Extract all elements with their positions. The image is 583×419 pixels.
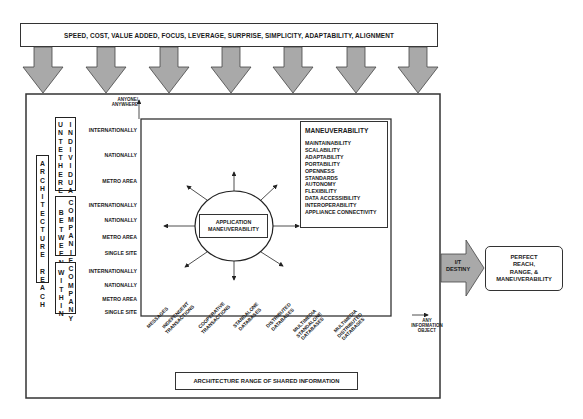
level-label: METRO AREA (102, 234, 137, 240)
group-label-letter: D (68, 138, 73, 146)
maneuverability-item: OPENNESS (305, 168, 383, 175)
maneuverability-title: MANEUVERABILITY (305, 127, 383, 134)
level-label: INTERNATIONALLY (89, 127, 137, 133)
reach-level-labels: INTERNATIONALLY NATIONALLY METRO AREA IN… (75, 0, 137, 419)
group-label-letter: I (60, 277, 62, 285)
y-axis-end-line: ANYWHERE (108, 102, 138, 107)
destiny-label: I/T DESTINY (444, 259, 472, 272)
reach-title-letter: E (40, 210, 45, 218)
group-label-letter: E (58, 146, 63, 154)
group-label-letter: B (59, 209, 64, 217)
application-maneuverability-box: APPLICATION MANEUVERABILITY (199, 214, 268, 238)
group-label-letter: N (68, 240, 73, 248)
architecture-reach-label: ARCHITECTURE REACH (36, 155, 49, 283)
perfect-outcome-box: PERFECT REACH, RANGE, & MANEUVERABILITY (485, 246, 563, 291)
group-label-letter: R (58, 179, 63, 187)
group-label-letter: N (68, 306, 73, 314)
group-label-letter: H (59, 294, 64, 302)
group-label-letter: T (59, 286, 63, 294)
level-label: METRO AREA (102, 178, 137, 184)
group-label-letter: E (59, 242, 64, 250)
reach-title-letter: I (42, 193, 44, 201)
maneuverability-item: STANDARDS (305, 175, 383, 182)
reach-title-letter: C (40, 218, 45, 226)
group-label-letter: I (70, 162, 72, 170)
maneuverability-item: AUTONOMY (305, 181, 383, 188)
group-label-letter: P (69, 290, 74, 298)
reach-title-letter: H (40, 185, 45, 193)
level-label: INTERNATIONALLY (89, 202, 137, 208)
group-label-letter: E (59, 217, 64, 225)
level-label: NATIONALLY (104, 217, 137, 223)
group-label-letter: U (58, 121, 63, 129)
x-axis-end-label: ANY INFORMATION OBJECT (409, 318, 445, 333)
reach-title-letter: U (40, 235, 45, 243)
group-label-letter: D (68, 171, 73, 179)
level-label: NATIONALLY (104, 152, 137, 158)
maneuverability-item: DATA ACCESSIBILITY (305, 195, 383, 202)
group-label-letter: E (59, 250, 64, 258)
group-label-letter: H (58, 162, 63, 170)
maneuverability-box: MANEUVERABILITY MAINTAINABILITYSCALABILI… (300, 121, 388, 228)
group-label-letter: T (59, 226, 63, 234)
arrow-upright-icon (261, 185, 277, 200)
arrow-downleft-icon (185, 252, 207, 267)
maneuverability-item: INTEROPERABILITY (305, 202, 383, 209)
group-label-letter: C (68, 199, 73, 207)
group-label-letter: Y (69, 315, 74, 323)
group-label-letter: N (59, 310, 64, 318)
architecture-range-title: ARCHITECTURE RANGE OF SHARED INFORMATION (175, 372, 358, 390)
down-arrow-icon (23, 47, 63, 93)
group-label-letter: M (68, 216, 74, 224)
group-label-letter: P (69, 224, 74, 232)
y-axis-end-label: ANYONE/ ANYWHERE (108, 97, 138, 107)
range-title-text: ARCHITECTURE RANGE OF SHARED INFORMATION (193, 378, 339, 384)
level-label: SINGLE SITE (105, 309, 137, 315)
group-label-letter: U (68, 179, 73, 187)
reach-title-letter: T (40, 201, 44, 209)
arrow-upleft-icon (187, 186, 207, 200)
group-label-letter: I (70, 249, 72, 257)
outcome-line: REACH, (486, 261, 562, 269)
center-line-2: MANEUVERABILITY (200, 226, 267, 233)
reach-title-letter: R (40, 268, 45, 276)
outcome-line: MANEUVERABILITY (486, 276, 562, 284)
group-label-letter: I (60, 302, 62, 310)
group-within-company: WITHIN COMPANY (55, 262, 76, 314)
maneuverability-item: ADAPTABILITY (305, 154, 383, 161)
group-label-letter: V (68, 154, 73, 162)
reach-title-letter: R (40, 168, 45, 176)
group-between-companies: BETWEEN COMPANIES (55, 196, 76, 256)
group-untethered-individual: UNTETHERED INDIVIDUAL (55, 117, 76, 191)
reach-title-letter: C (40, 293, 45, 301)
down-arrow-icon (273, 47, 313, 93)
group-label-letter: M (68, 282, 74, 290)
level-label: METRO AREA (102, 296, 137, 302)
outcome-line: RANGE, & (486, 269, 562, 277)
outcome-line: PERFECT (486, 254, 562, 262)
group-label-letter: N (68, 129, 73, 137)
group-label-letter: T (58, 154, 62, 162)
group-label-letter: C (68, 265, 73, 273)
level-label: SINGLE SITE (105, 250, 137, 256)
down-arrow-icon (336, 47, 376, 93)
reach-title-letter: H (40, 301, 45, 309)
group-label-letter: W (58, 234, 64, 242)
maneuverability-item: MAINTAINABILITY (305, 140, 383, 147)
group-label-letter: O (68, 207, 73, 215)
down-arrow-icon (211, 47, 251, 93)
down-arrow-icon (398, 47, 438, 93)
maneuverability-item: FLEXIBILITY (305, 188, 383, 195)
reach-title-letter: A (40, 160, 45, 168)
group-label-letter: A (68, 298, 73, 306)
group-label-letter: A (68, 187, 73, 195)
center-line-1: APPLICATION (200, 219, 267, 226)
group-label-letter: N (58, 129, 63, 137)
reach-title-letter (42, 260, 44, 268)
down-arrow-icon (149, 47, 189, 93)
reach-title-letter: E (40, 251, 45, 259)
group-label-letter: O (68, 273, 73, 281)
group-label-letter: I (70, 146, 72, 154)
level-label: INTERNATIONALLY (89, 268, 137, 274)
reach-title-letter: T (40, 226, 44, 234)
